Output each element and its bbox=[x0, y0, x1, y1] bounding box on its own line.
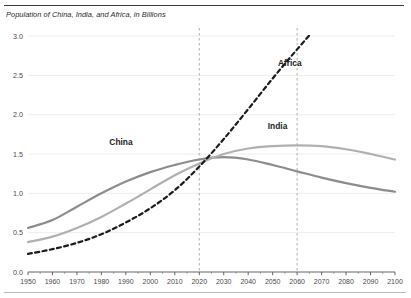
x-tick-label: 1980 bbox=[94, 278, 110, 285]
x-tick-label: 1950 bbox=[20, 278, 36, 285]
y-tick-label: 2.5 bbox=[13, 71, 23, 80]
series-paths-group bbox=[28, 0, 395, 254]
y-tick-label: 0.5 bbox=[13, 228, 23, 237]
series-label-china: China bbox=[109, 137, 133, 147]
y-tick-label: 0.0 bbox=[13, 268, 23, 277]
x-tick-label: 2010 bbox=[167, 278, 183, 285]
x-tick-label: 2100 bbox=[387, 278, 403, 285]
series-label-africa: Africa bbox=[278, 58, 302, 68]
x-tick-label: 2000 bbox=[143, 278, 159, 285]
x-tick-label: 2060 bbox=[289, 278, 305, 285]
x-tick-label: 2080 bbox=[338, 278, 354, 285]
series-label-india: India bbox=[268, 121, 288, 131]
line-chart: 0.00.51.01.52.02.53.0 195019601970198019… bbox=[0, 0, 411, 298]
x-tick-label: 2030 bbox=[216, 278, 232, 285]
x-tick-label: 1990 bbox=[118, 278, 134, 285]
x-tick-label: 1960 bbox=[45, 278, 61, 285]
x-tick-label: 1970 bbox=[69, 278, 85, 285]
x-tick-label: 2090 bbox=[363, 278, 379, 285]
x-axis-tick-labels: 1950196019701980199020002010202020302040… bbox=[20, 278, 403, 285]
figure-container: Population of China, India, and Africa, … bbox=[0, 0, 411, 298]
y-axis-tick-labels: 0.00.51.01.52.02.53.0 bbox=[13, 32, 23, 277]
y-tick-label: 1.0 bbox=[13, 189, 23, 198]
series-line-africa bbox=[28, 0, 395, 254]
y-tick-label: 3.0 bbox=[13, 32, 23, 41]
series-annotation-labels: ChinaIndiaAfrica bbox=[109, 58, 302, 147]
x-tick-label: 2040 bbox=[240, 278, 256, 285]
y-tick-label: 1.5 bbox=[13, 150, 23, 159]
bottom-divider-rule bbox=[4, 292, 406, 293]
x-tick-label: 2070 bbox=[314, 278, 330, 285]
series-line-china bbox=[28, 157, 395, 228]
axis-group bbox=[28, 272, 395, 275]
x-tick-label: 2020 bbox=[191, 278, 207, 285]
y-tick-label: 2.0 bbox=[13, 110, 23, 119]
x-tick-label: 2050 bbox=[265, 278, 281, 285]
